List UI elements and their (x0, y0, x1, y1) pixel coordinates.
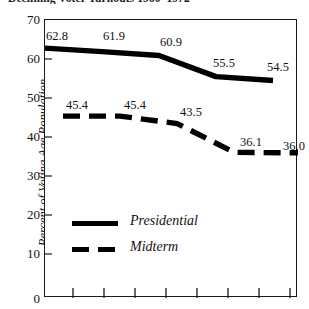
chart-figure: Declining Voter Turnouts 1960–1972 Perce… (0, 0, 309, 309)
y-axis-ticks (45, 59, 52, 254)
y-tick-label: 30 (0, 169, 40, 182)
series-line-midterm (63, 116, 298, 153)
legend-swatch-solid (72, 221, 118, 226)
value-label-presidential: 54.5 (267, 61, 289, 74)
x-axis-ticks (73, 288, 290, 298)
y-tick-label: 20 (0, 208, 40, 221)
y-tick-label: 40 (0, 130, 40, 143)
value-label-midterm: 36.0 (283, 140, 305, 153)
value-label-midterm: 45.4 (66, 99, 88, 112)
legend-swatch-dashed (72, 247, 118, 252)
y-axis-tick-labels: 70 60 50 40 30 20 10 0 (0, 0, 40, 309)
value-label-midterm: 45.4 (124, 99, 146, 112)
value-label-midterm: 36.1 (240, 136, 262, 149)
y-tick-label: 70 (0, 13, 40, 26)
series-line-presidential (45, 48, 273, 80)
y-tick-label: 0 (0, 292, 40, 305)
value-label-presidential: 61.9 (103, 30, 125, 43)
legend-label: Midterm (130, 239, 178, 255)
y-tick-label: 50 (0, 91, 40, 104)
chart-legend: Presidential Midterm (72, 212, 252, 264)
legend-label: Presidential (130, 213, 198, 229)
chart-title: Declining Voter Turnouts 1960–1972 (8, 0, 308, 4)
y-tick-label: 60 (0, 52, 40, 65)
legend-item-presidential: Presidential (72, 212, 252, 238)
value-label-presidential: 60.9 (160, 36, 182, 49)
y-tick-label: 10 (0, 247, 40, 260)
legend-item-midterm: Midterm (72, 238, 252, 264)
value-label-midterm: 43.5 (180, 106, 202, 119)
value-label-presidential: 62.8 (46, 30, 68, 43)
value-label-presidential: 55.5 (213, 57, 235, 70)
